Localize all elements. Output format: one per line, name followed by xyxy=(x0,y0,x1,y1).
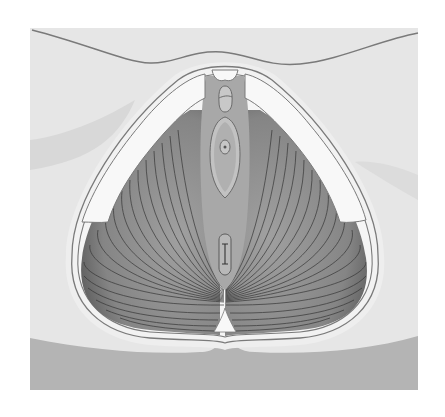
pelvic-floor-diagram xyxy=(0,0,445,417)
clitoris xyxy=(219,86,232,112)
urethral-meatus xyxy=(224,146,227,149)
